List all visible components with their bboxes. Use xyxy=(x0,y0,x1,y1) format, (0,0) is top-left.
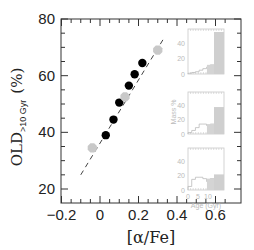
svg-text:20: 20 xyxy=(177,116,185,123)
y-tick-label: 40 xyxy=(38,123,55,140)
data-point xyxy=(120,92,129,101)
y-tick-labels: 20406080 xyxy=(38,10,55,197)
inset-y-label: Mass % xyxy=(170,100,177,125)
x-tick-label: 0.2 xyxy=(128,206,149,223)
data-point xyxy=(125,81,133,89)
inset-histograms: 020400204002040Mass %0510Age (Gyr) xyxy=(170,29,224,210)
x-tick-label: −0.2 xyxy=(47,206,77,223)
svg-text:10: 10 xyxy=(204,193,212,200)
data-point xyxy=(130,70,138,78)
data-points xyxy=(88,46,163,153)
svg-text:40: 40 xyxy=(177,158,185,165)
data-point xyxy=(102,131,110,139)
x-axis-label: [α/Fe] xyxy=(127,228,175,247)
data-point xyxy=(109,115,117,123)
svg-text:0: 0 xyxy=(186,193,190,200)
inset-x-label: Age (Gyr) xyxy=(191,202,221,210)
data-point xyxy=(153,46,162,55)
y-tick-label: 80 xyxy=(38,10,55,27)
y-tick-label: 20 xyxy=(38,180,55,197)
svg-text:20: 20 xyxy=(177,55,185,62)
svg-text:40: 40 xyxy=(177,40,185,47)
svg-text:20: 20 xyxy=(177,172,185,179)
fit-line xyxy=(81,39,164,175)
data-point xyxy=(88,143,97,152)
x-tick-label: 0 xyxy=(96,206,104,223)
chart: 20406080 −0.200.20.40.6 020400204002040M… xyxy=(0,0,254,250)
x-tick-label: 0.4 xyxy=(167,206,188,223)
svg-text:0: 0 xyxy=(181,131,185,138)
svg-text:0: 0 xyxy=(181,187,185,194)
y-axis-label: OLD>10 Gyr(%) xyxy=(8,68,28,167)
svg-text:0: 0 xyxy=(181,71,185,78)
svg-text:OLD>10 Gyr(%): OLD>10 Gyr(%) xyxy=(8,68,28,167)
data-point xyxy=(138,59,146,67)
y-tick-label: 60 xyxy=(38,67,55,84)
svg-text:40: 40 xyxy=(177,102,185,109)
svg-text:5: 5 xyxy=(196,193,200,200)
